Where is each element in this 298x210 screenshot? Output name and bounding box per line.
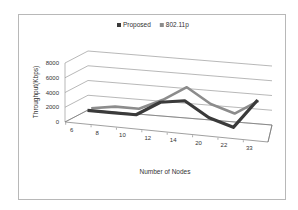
y-tick-label: 2000 — [46, 104, 60, 110]
floor-edge — [268, 125, 272, 142]
gridline-side — [65, 95, 88, 107]
x-tick-label: 14 — [170, 137, 177, 143]
gridline-side — [65, 81, 88, 93]
gridline-side — [65, 51, 88, 63]
legend-swatch — [117, 23, 121, 27]
x-tick-label: 22 — [221, 142, 228, 148]
y-tick-label: 0 — [56, 119, 60, 125]
y-tick-label: 6000 — [46, 75, 60, 81]
x-tick-label: 8 — [95, 130, 99, 136]
legend: Proposed802.11p — [117, 21, 189, 29]
x-tick-label: 6 — [70, 127, 74, 133]
x-tick-label: 12 — [144, 135, 151, 141]
x-tick-label: 33 — [246, 145, 253, 151]
grid — [65, 51, 272, 125]
gridline-back — [88, 81, 272, 96]
x-tick-label: 10 — [119, 132, 126, 138]
legend-swatch — [160, 23, 164, 27]
x-axis-label: Number of Nodes — [140, 168, 192, 175]
gridline-back — [88, 66, 272, 81]
y-axis-ticks: 02000400060008000 — [46, 60, 60, 125]
y-tick-label: 4000 — [46, 90, 60, 96]
y-axis-label: Throughput(Kbps) — [32, 66, 40, 118]
legend-label: 802.11p — [166, 21, 189, 29]
x-tick-label: 20 — [195, 140, 202, 146]
floor-outline — [65, 110, 272, 142]
chart-floor — [65, 110, 272, 142]
gridline-side — [65, 66, 88, 78]
y-tick-label: 8000 — [46, 60, 60, 66]
gridline-back — [88, 51, 272, 66]
legend-label: Proposed — [123, 21, 151, 29]
chart: 02000400060008000 68101214202233 Through… — [0, 0, 298, 210]
x-axis-ticks: 68101214202233 — [66, 123, 254, 151]
